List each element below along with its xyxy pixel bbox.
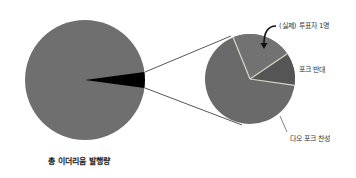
for-leader-line — [280, 116, 287, 132]
label-voter: (실제) 투표자 1명 — [279, 20, 329, 30]
main-pie — [25, 20, 145, 140]
label-against: 포크 반대 — [299, 64, 325, 74]
label-for: 다오 포크 찬성 — [290, 133, 330, 143]
detail-pie — [205, 34, 295, 124]
chart-title: 총 이더리움 발행량 — [48, 155, 110, 166]
